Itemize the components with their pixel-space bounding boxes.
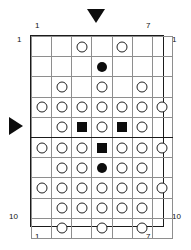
grid-table bbox=[31, 36, 173, 239]
grid-cell[interactable] bbox=[112, 198, 132, 218]
triangle-right-marker-icon bbox=[9, 117, 23, 135]
grid-cell[interactable] bbox=[152, 218, 172, 238]
grid-cell[interactable] bbox=[132, 158, 152, 178]
grid-cell[interactable] bbox=[92, 218, 112, 238]
open-circle-icon bbox=[36, 182, 47, 193]
filled-circle-icon bbox=[97, 163, 107, 173]
grid-row bbox=[32, 218, 173, 238]
grid-cell[interactable] bbox=[52, 158, 72, 178]
open-circle-icon bbox=[36, 142, 47, 153]
grid-cell[interactable] bbox=[112, 77, 132, 97]
grid-cell[interactable] bbox=[32, 158, 52, 178]
open-circle-icon bbox=[137, 182, 148, 193]
grid-cell[interactable] bbox=[32, 178, 52, 198]
grid-cell[interactable] bbox=[32, 57, 52, 77]
grid-cell[interactable] bbox=[32, 37, 52, 57]
grid-cell[interactable] bbox=[112, 57, 132, 77]
grid-cell[interactable] bbox=[32, 218, 52, 238]
grid-cell[interactable] bbox=[152, 97, 172, 117]
grid-cell[interactable] bbox=[152, 77, 172, 97]
grid-cell[interactable] bbox=[152, 178, 172, 198]
grid-cell[interactable] bbox=[112, 218, 132, 238]
grid-cell[interactable] bbox=[112, 117, 132, 137]
grid-cell[interactable] bbox=[152, 57, 172, 77]
grid-cell[interactable] bbox=[112, 158, 132, 178]
grid-cell[interactable] bbox=[72, 117, 92, 137]
grid-cell[interactable] bbox=[72, 77, 92, 97]
grid-cell[interactable] bbox=[52, 117, 72, 137]
grid-cell[interactable] bbox=[132, 218, 152, 238]
grid-cell[interactable] bbox=[32, 117, 52, 137]
grid-cell[interactable] bbox=[32, 137, 52, 157]
grid-row bbox=[32, 137, 173, 157]
grid-cell[interactable] bbox=[52, 218, 72, 238]
grid-cell[interactable] bbox=[72, 137, 92, 157]
grid-cell[interactable] bbox=[52, 77, 72, 97]
grid-cell[interactable] bbox=[152, 198, 172, 218]
grid-cell[interactable] bbox=[72, 218, 92, 238]
grid-cell[interactable] bbox=[132, 97, 152, 117]
open-circle-icon bbox=[157, 102, 168, 113]
grid-cell[interactable] bbox=[132, 178, 152, 198]
grid-cell[interactable] bbox=[92, 158, 112, 178]
open-circle-icon bbox=[96, 122, 107, 133]
grid-cell[interactable] bbox=[92, 97, 112, 117]
filled-square-icon bbox=[97, 143, 107, 153]
open-circle-icon bbox=[56, 102, 67, 113]
triangle-down-marker-icon bbox=[87, 9, 105, 23]
grid-cell[interactable] bbox=[92, 57, 112, 77]
grid-cell[interactable] bbox=[132, 37, 152, 57]
grid-cell[interactable] bbox=[52, 37, 72, 57]
grid-cell[interactable] bbox=[132, 198, 152, 218]
grid-cell[interactable] bbox=[52, 198, 72, 218]
grid-cell[interactable] bbox=[32, 97, 52, 117]
open-circle-icon bbox=[117, 203, 128, 214]
grid-cell[interactable] bbox=[112, 37, 132, 57]
grid-cell[interactable] bbox=[132, 57, 152, 77]
grid-cell[interactable] bbox=[92, 198, 112, 218]
grid-cell[interactable] bbox=[72, 158, 92, 178]
grid-cell[interactable] bbox=[92, 37, 112, 57]
grid-cell[interactable] bbox=[72, 178, 92, 198]
grid-cell[interactable] bbox=[152, 117, 172, 137]
grid-cell[interactable] bbox=[72, 97, 92, 117]
grid-cell[interactable] bbox=[112, 137, 132, 157]
grid-cell[interactable] bbox=[52, 57, 72, 77]
grid-row bbox=[32, 97, 173, 117]
grid-cell[interactable] bbox=[132, 137, 152, 157]
open-circle-icon bbox=[76, 162, 87, 173]
grid-cell[interactable] bbox=[52, 97, 72, 117]
grid-cell[interactable] bbox=[92, 117, 112, 137]
open-circle-icon bbox=[117, 142, 128, 153]
filled-square-icon bbox=[77, 122, 87, 132]
grid-cell[interactable] bbox=[152, 137, 172, 157]
grid-cell[interactable] bbox=[52, 137, 72, 157]
grid-cell[interactable] bbox=[72, 57, 92, 77]
grid-cell[interactable] bbox=[32, 198, 52, 218]
open-circle-icon bbox=[96, 102, 107, 113]
open-circle-icon bbox=[56, 203, 67, 214]
open-circle-icon bbox=[56, 223, 67, 234]
open-circle-icon bbox=[137, 102, 148, 113]
grid-cell[interactable] bbox=[72, 37, 92, 57]
grid-cell[interactable] bbox=[32, 77, 52, 97]
grid-cell[interactable] bbox=[112, 178, 132, 198]
grid-cell[interactable] bbox=[92, 178, 112, 198]
grid-row bbox=[32, 57, 173, 77]
open-circle-icon bbox=[76, 142, 87, 153]
grid-cell[interactable] bbox=[112, 97, 132, 117]
grid-cell[interactable] bbox=[132, 117, 152, 137]
grid-cell[interactable] bbox=[152, 37, 172, 57]
open-circle-icon bbox=[157, 182, 168, 193]
label-top-left-row: 1 bbox=[17, 35, 21, 44]
grid-cell[interactable] bbox=[52, 178, 72, 198]
open-circle-icon bbox=[137, 142, 148, 153]
grid-cell[interactable] bbox=[132, 77, 152, 97]
grid-cell[interactable] bbox=[92, 77, 112, 97]
open-circle-icon bbox=[56, 142, 67, 153]
open-circle-icon bbox=[56, 182, 67, 193]
grid-cell[interactable] bbox=[92, 137, 112, 157]
open-circle-icon bbox=[96, 223, 107, 234]
grid-cell[interactable] bbox=[152, 158, 172, 178]
grid-cell[interactable] bbox=[72, 198, 92, 218]
